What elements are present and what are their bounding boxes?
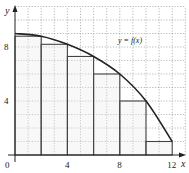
- x-tick-label: 12: [167, 160, 176, 170]
- x-tick-label: 4: [65, 160, 70, 170]
- x-axis-label: x: [180, 158, 186, 169]
- x-tick-label: 8: [117, 160, 122, 170]
- y-axis-arrow-icon: [13, 5, 18, 12]
- riemann-rectangle: [146, 142, 172, 156]
- riemann-rectangle: [15, 36, 41, 155]
- riemann-sum-chart: x y y = f(x) 0481248: [0, 0, 189, 173]
- riemann-rectangle: [120, 101, 146, 155]
- riemann-rectangle: [41, 44, 67, 155]
- y-tick-label: 4: [4, 96, 9, 106]
- riemann-rectangle: [94, 74, 120, 155]
- y-tick-label: 8: [4, 42, 9, 52]
- x-tick-label: 0: [5, 160, 10, 170]
- riemann-rectangle: [67, 56, 93, 155]
- y-axis-label: y: [4, 5, 10, 16]
- x-axis-arrow-icon: [179, 153, 186, 158]
- function-label: y = f(x): [117, 36, 142, 45]
